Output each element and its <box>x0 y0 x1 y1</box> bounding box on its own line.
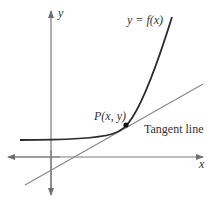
tangent-line-diagram: y x y = f(x) P(x, y) Tangent line <box>0 0 218 204</box>
y-axis-label: y <box>57 6 64 20</box>
point-label: P(x, y) <box>93 109 126 123</box>
point-p <box>123 122 128 127</box>
x-axis-label: x <box>198 157 205 171</box>
tangent-label: Tangent line <box>144 122 203 136</box>
curve-label: y = f(x) <box>126 13 163 27</box>
